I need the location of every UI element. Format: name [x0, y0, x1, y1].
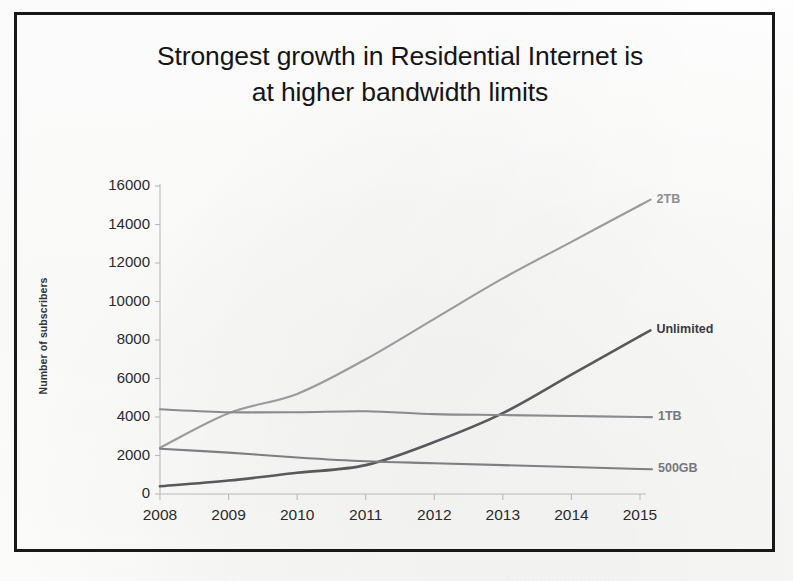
chart-series-lines — [160, 200, 652, 487]
x-tick-label: 2012 — [399, 506, 469, 524]
chart-axes — [160, 184, 646, 494]
series-label-2tb: 2TB — [657, 192, 681, 206]
series-line-500gb — [160, 449, 640, 469]
x-tick-label: 2011 — [331, 506, 401, 524]
series-line-1tb — [160, 409, 640, 417]
x-tick-label: 2014 — [536, 506, 606, 524]
chart-line-svg — [0, 0, 793, 581]
series-label-500gb: 500GB — [658, 461, 698, 475]
series-leader-unlimited — [640, 330, 650, 336]
x-tick-label: 2015 — [605, 506, 675, 524]
x-tick-label: 2013 — [468, 506, 538, 524]
chart-plot-area: Number of subscribers 160001400012000100… — [0, 0, 793, 581]
series-label-unlimited: Unlimited — [656, 322, 713, 336]
x-tick-label: 2010 — [262, 506, 332, 524]
series-label-1tb: 1TB — [658, 409, 682, 423]
x-tick-label: 2009 — [194, 506, 264, 524]
series-leader-2tb — [640, 200, 651, 206]
x-tick-label: 2008 — [125, 506, 195, 524]
